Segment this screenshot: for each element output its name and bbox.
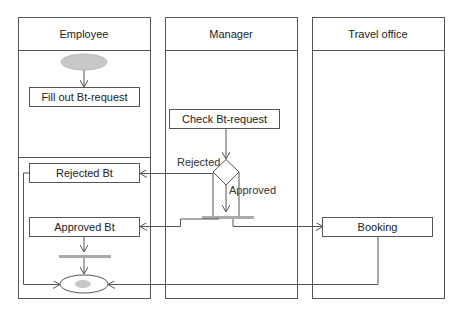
join-bar (59, 255, 111, 258)
final-node (60, 275, 108, 293)
guard-approved: Approved (229, 184, 276, 196)
guard-rejected: Rejected (177, 156, 220, 168)
svg-text:Check Bt-request: Check Bt-request (182, 113, 267, 125)
flow-fork-to-approved (140, 219, 219, 227)
svg-text:Approved Bt: Approved Bt (54, 221, 115, 233)
flow-booking-to-final (108, 237, 378, 285)
action-booking: Booking (323, 218, 433, 237)
activity-diagram: Employee Manager Travel office Fill out … (0, 0, 460, 312)
svg-text:Rejected Bt: Rejected Bt (56, 167, 113, 179)
action-fill-out-bt-request: Fill out Bt-request (30, 88, 140, 107)
lane-title-travel-office: Travel office (348, 28, 407, 40)
action-rejected-bt: Rejected Bt (30, 164, 140, 183)
initial-node (61, 54, 107, 70)
svg-text:Fill out Bt-request: Fill out Bt-request (41, 91, 127, 103)
action-approved-bt: Approved Bt (30, 218, 140, 237)
lane-title-manager: Manager (209, 28, 253, 40)
action-check-bt-request: Check Bt-request (170, 110, 280, 129)
svg-text:Booking: Booking (358, 221, 398, 233)
flow-fork-to-booking (233, 219, 323, 227)
lane-title-employee: Employee (60, 28, 109, 40)
